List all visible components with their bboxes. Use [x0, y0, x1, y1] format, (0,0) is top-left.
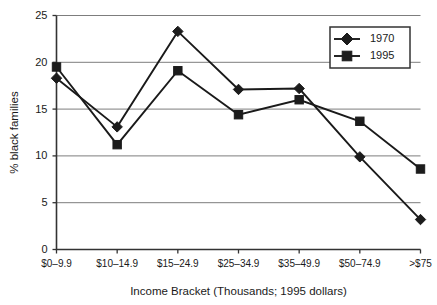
x-tick-label-6: >$75	[409, 258, 432, 269]
x-tick-labels-group: $0–9.9$10–14.9$15–24.9$25–34.9$35–49.9$5…	[41, 258, 432, 269]
x-tick-label-2: $15–24.9	[157, 258, 199, 269]
y-tick-label-15: 15	[35, 103, 47, 115]
x-tick-label-3: $25–34.9	[218, 258, 260, 269]
y-tick-labels-group: 0510152025	[35, 9, 47, 255]
x-tick-label-1: $10–14.9	[96, 258, 138, 269]
y-tick-label-0: 0	[41, 243, 47, 255]
chart-legend[interactable]: 19701995	[330, 27, 410, 68]
legend-label-1970: 1970	[370, 32, 394, 44]
y-tick-label-25: 25	[35, 9, 47, 21]
marker-square-1995-1	[113, 140, 121, 148]
legend-label-1995: 1995	[370, 49, 394, 61]
marker-square-1995-5	[356, 117, 364, 125]
square-icon	[342, 51, 352, 61]
line-chart-canvas: 0510152025 $0–9.9$10–14.9$15–24.9$25–34.…	[0, 0, 437, 305]
x-axis-title: Income Bracket (Thousands; 1995 dollars)	[130, 285, 347, 297]
y-tick-label-5: 5	[41, 196, 47, 208]
y-tick-label-20: 20	[35, 56, 47, 68]
x-tick-label-5: $50–74.9	[339, 258, 381, 269]
scan-artifact-text	[48, 0, 338, 7]
marker-square-1995-0	[52, 63, 60, 71]
marker-square-1995-6	[416, 165, 424, 173]
y-axis-title: % black families	[8, 91, 20, 174]
chart-figure: 0510152025 $0–9.9$10–14.9$15–24.9$25–34.…	[0, 0, 437, 305]
x-tick-label-4: $35–49.9	[278, 258, 320, 269]
marker-square-1995-4	[295, 96, 303, 104]
y-tick-label-10: 10	[35, 149, 47, 161]
x-tick-label-0: $0–9.9	[41, 258, 72, 269]
marker-square-1995-2	[174, 67, 182, 75]
marker-square-1995-3	[234, 111, 242, 119]
